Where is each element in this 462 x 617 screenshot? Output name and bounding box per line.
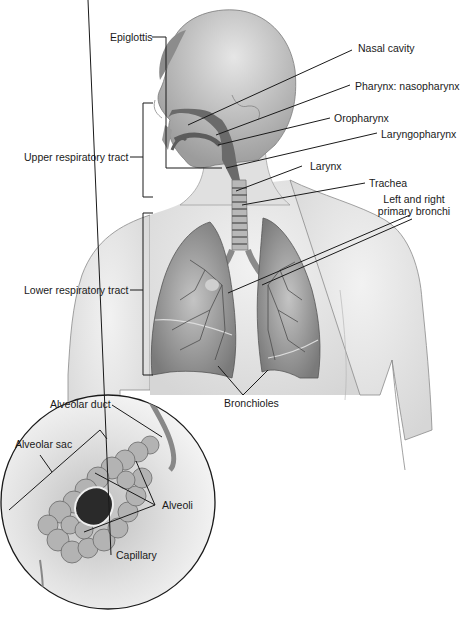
label-laryngopharynx: Laryngopharynx: [381, 128, 456, 140]
anatomy-illustration: [0, 0, 462, 617]
label-capillary: Capillary: [116, 549, 157, 561]
label-alveolar-duct: Alveolar duct: [50, 398, 111, 410]
label-upper-respiratory-tract: Upper respiratory tract: [24, 151, 128, 163]
label-alveoli: Alveoli: [162, 499, 193, 511]
label-nasopharynx: Pharynx: nasopharynx: [355, 80, 459, 92]
label-primary-bronchi-line1: Left and right: [372, 193, 456, 205]
label-nasal-cavity: Nasal cavity: [358, 42, 415, 54]
label-lower-respiratory-tract: Lower respiratory tract: [24, 284, 128, 296]
label-bronchioles: Bronchioles: [224, 397, 279, 409]
label-primary-bronchi-line2: primary bronchi: [372, 205, 456, 217]
label-trachea: Trachea: [369, 177, 407, 189]
label-epiglottis: Epiglottis: [110, 31, 153, 43]
label-primary-bronchi: Left and right primary bronchi: [372, 193, 456, 217]
label-alveolar-sac: Alveolar sac: [15, 438, 72, 450]
label-larynx: Larynx: [310, 160, 342, 172]
label-oropharynx: Oropharynx: [334, 112, 389, 124]
respiratory-diagram: Epiglottis Nasal cavity Pharynx: nasopha…: [0, 0, 462, 617]
